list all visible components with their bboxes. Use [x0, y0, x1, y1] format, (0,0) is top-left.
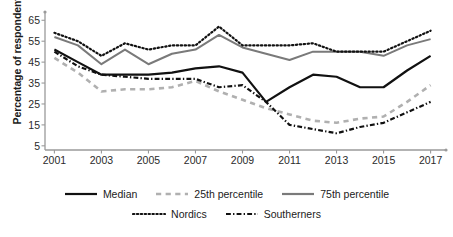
legend-label: 25th percentile	[194, 188, 263, 200]
legend-swatch-icon	[132, 209, 166, 219]
legend-item-median[interactable]: Median	[64, 188, 137, 200]
legend-label: Southerners	[264, 208, 321, 220]
legend-label: 75th percentile	[320, 188, 389, 200]
series-line-75th-percentile	[54, 35, 430, 64]
legend-swatch-icon	[64, 189, 98, 199]
series-line-southerners	[54, 52, 430, 134]
chart-canvas	[0, 0, 453, 237]
plot-area	[0, 0, 453, 237]
x-axis-cap	[444, 148, 447, 151]
legend-item-southerners[interactable]: Southerners	[225, 208, 321, 220]
series-line-25th-percentile	[54, 58, 430, 123]
y-axis-cap	[43, 10, 46, 13]
legend-label: Median	[103, 188, 137, 200]
chart-figure: Percentage of respondents 5152535455565 …	[0, 0, 453, 237]
legend-item-nordics[interactable]: Nordics	[132, 208, 207, 220]
series-line-nordics	[54, 27, 430, 56]
legend-item-75th-percentile[interactable]: 75th percentile	[281, 188, 389, 200]
legend-item-25th-percentile[interactable]: 25th percentile	[155, 188, 263, 200]
legend-label: Nordics	[171, 208, 207, 220]
legend-swatch-icon	[155, 189, 189, 199]
legend-swatch-icon	[281, 189, 315, 199]
chart-legend-row-2: NordicsSoutherners	[0, 208, 453, 220]
legend-swatch-icon	[225, 209, 259, 219]
chart-legend-row-1: Median25th percentile75th percentile	[0, 188, 453, 200]
